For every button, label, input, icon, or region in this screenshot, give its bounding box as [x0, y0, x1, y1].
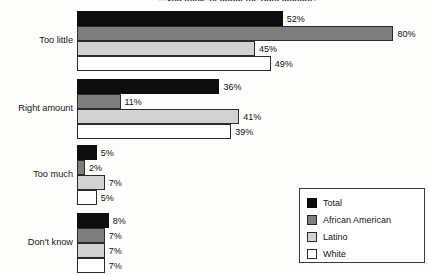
bar [77, 213, 109, 228]
bar [77, 41, 255, 56]
bar [77, 79, 219, 94]
bar [77, 11, 283, 26]
legend-label: White [323, 249, 346, 259]
chart-title-clipped: …you think, or about the right amount? [118, 0, 358, 1]
bar-value-label: 2% [89, 163, 102, 173]
bar [77, 109, 239, 124]
bar-value-label: 41% [243, 112, 261, 122]
category-label: Don't know [0, 237, 73, 247]
bar-value-label: 7% [109, 246, 122, 256]
category-label: Right amount [0, 103, 73, 113]
bar-value-label: 5% [101, 148, 114, 158]
bar [77, 190, 97, 205]
legend-item: African American [307, 212, 424, 228]
bar [77, 145, 97, 160]
legend-item: Latino [307, 229, 424, 245]
bar [77, 228, 105, 243]
legend-swatch [307, 215, 317, 225]
bar-value-label: 7% [109, 231, 122, 241]
bar-value-label: 7% [109, 178, 122, 188]
bar-value-label: 36% [223, 82, 241, 92]
bar [77, 124, 231, 139]
bar [77, 243, 105, 258]
bar [77, 94, 121, 109]
bar-group: Right amount36%11%41%39% [0, 79, 429, 139]
legend-item: White [307, 246, 424, 262]
legend-swatch [307, 232, 317, 242]
legend-swatch [307, 198, 317, 208]
grouped-bar-chart: …you think, or about the right amount? T… [0, 0, 429, 275]
bar [77, 26, 393, 41]
category-label: Too much [0, 169, 73, 179]
bar [77, 175, 105, 190]
bar-value-label: 39% [235, 127, 253, 137]
bar-value-label: 8% [113, 216, 126, 226]
bar-value-label: 7% [109, 261, 122, 271]
category-label: Too little [0, 35, 73, 45]
legend-swatch [307, 249, 317, 259]
bar-value-label: 11% [125, 97, 142, 107]
bar [77, 160, 85, 175]
legend-label: Total [323, 198, 342, 208]
bar [77, 258, 105, 273]
chart-legend: TotalAfrican AmericanLatinoWhite [299, 188, 425, 263]
bar [77, 56, 271, 71]
bar-value-label: 49% [275, 59, 293, 69]
bar-value-label: 5% [101, 193, 114, 203]
bar-group: Too little52%80%45%49% [0, 11, 429, 71]
bar-value-label: 80% [397, 29, 415, 39]
legend-label: Latino [323, 232, 348, 242]
legend-item: Total [307, 195, 424, 211]
legend-label: African American [323, 215, 391, 225]
bar-value-label: 52% [287, 14, 305, 24]
bar-value-label: 45% [259, 44, 277, 54]
